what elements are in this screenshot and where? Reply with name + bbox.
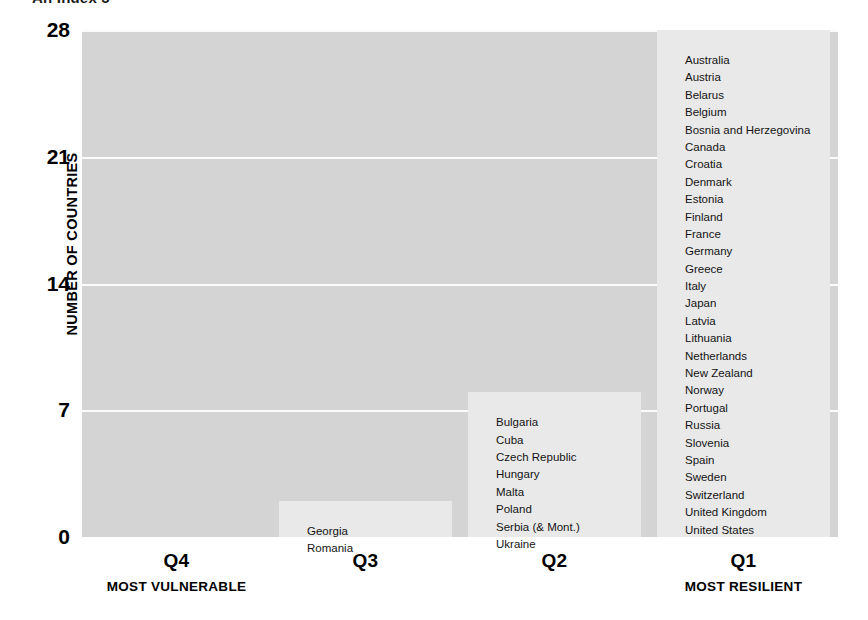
country-label: Spain xyxy=(685,452,826,469)
country-label: United Kingdom xyxy=(685,504,826,521)
country-label: Switzerland xyxy=(685,487,826,504)
country-label: Sweden xyxy=(685,469,826,486)
x-axis-sublabel-q4: MOST VULNERABLE xyxy=(82,579,271,594)
country-label: Hungary xyxy=(496,466,637,483)
x-axis-sublabel-q1: MOST RESILIENT xyxy=(649,579,838,594)
bar-country-list-q2: BulgariaCubaCzech RepublicHungaryMaltaPo… xyxy=(496,414,637,553)
country-label: United States xyxy=(685,522,826,539)
plot-area: GeorgiaRomaniaBulgariaCubaCzech Republic… xyxy=(82,30,838,537)
country-label: Estonia xyxy=(685,191,826,208)
country-label: Croatia xyxy=(685,156,826,173)
bar-q2[interactable]: BulgariaCubaCzech RepublicHungaryMaltaPo… xyxy=(468,392,641,537)
bar-country-list-q1: AustraliaAustriaBelarusBelgiumBosnia and… xyxy=(685,52,826,539)
x-axis-label-q3: Q3 xyxy=(271,550,460,572)
country-label: Netherlands xyxy=(685,348,826,365)
country-label: Czech Republic xyxy=(496,449,637,466)
country-label: Russia xyxy=(685,417,826,434)
country-label: Bosnia and Herzegovina xyxy=(685,122,826,139)
country-label: Japan xyxy=(685,295,826,312)
country-label: Canada xyxy=(685,139,826,156)
bar-q1[interactable]: AustraliaAustriaBelarusBelgiumBosnia and… xyxy=(657,30,830,537)
country-label: Australia xyxy=(685,52,826,69)
country-label: Belgium xyxy=(685,104,826,121)
x-axis-group-q1: Q1MOST RESILIENT xyxy=(649,550,838,594)
x-axis-label-q2: Q2 xyxy=(460,550,649,572)
y-axis-ticks: 07142128 xyxy=(0,0,70,620)
y-tick-label-21: 21 xyxy=(12,145,70,169)
bar-q3[interactable]: GeorgiaRomania xyxy=(279,501,452,537)
country-label: Greece xyxy=(685,261,826,278)
y-tick-label-7: 7 xyxy=(12,398,70,422)
country-label: Latvia xyxy=(685,313,826,330)
country-label: Bulgaria xyxy=(496,414,637,431)
y-axis-title: NUMBER OF COUNTRIES xyxy=(64,114,80,374)
country-label: Norway xyxy=(685,382,826,399)
country-label: New Zealand xyxy=(685,365,826,382)
country-label: Germany xyxy=(685,243,826,260)
x-axis-group-q3: Q3 xyxy=(271,550,460,572)
x-axis-label-q4: Q4 xyxy=(82,550,271,572)
country-label: Poland xyxy=(496,501,637,518)
country-label: Lithuania xyxy=(685,330,826,347)
x-axis-label-q1: Q1 xyxy=(649,550,838,572)
country-label: Denmark xyxy=(685,174,826,191)
country-label: Portugal xyxy=(685,400,826,417)
plot-inner: GeorgiaRomaniaBulgariaCubaCzech Republic… xyxy=(82,30,838,537)
y-tick-label-28: 28 xyxy=(12,18,70,42)
x-axis-group-q2: Q2 xyxy=(460,550,649,572)
country-label: Italy xyxy=(685,278,826,295)
country-label: Serbia (& Mont.) xyxy=(496,519,637,536)
y-tick-label-14: 14 xyxy=(12,272,70,296)
x-axis-group-q4: Q4MOST VULNERABLE xyxy=(82,550,271,594)
country-label: Austria xyxy=(685,69,826,86)
chart-root: An Index 5 07142128 NUMBER OF COUNTRIES … xyxy=(0,0,868,620)
country-label: Malta xyxy=(496,484,637,501)
country-label: Slovenia xyxy=(685,435,826,452)
y-tick-label-0: 0 xyxy=(12,525,70,549)
country-label: Cuba xyxy=(496,432,637,449)
country-label: Belarus xyxy=(685,87,826,104)
country-label: France xyxy=(685,226,826,243)
country-label: Georgia xyxy=(307,523,448,540)
country-label: Finland xyxy=(685,209,826,226)
